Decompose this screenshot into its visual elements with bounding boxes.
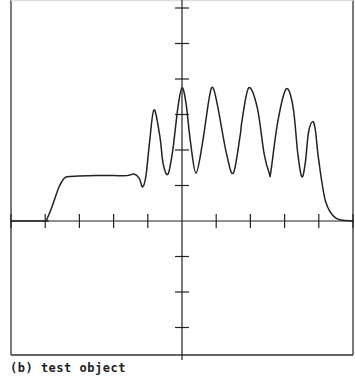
figure-caption: (b) test object: [10, 361, 126, 375]
chart-plot: [0, 0, 355, 360]
